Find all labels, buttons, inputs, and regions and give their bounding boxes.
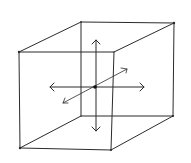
horizontal-arrow-icon [50, 83, 144, 91]
cube-back-face [81, 22, 174, 116]
origin-point [93, 85, 97, 89]
cube-drawing [0, 0, 191, 163]
cube-diagram: Cube with 3D axis arrows [0, 0, 191, 163]
